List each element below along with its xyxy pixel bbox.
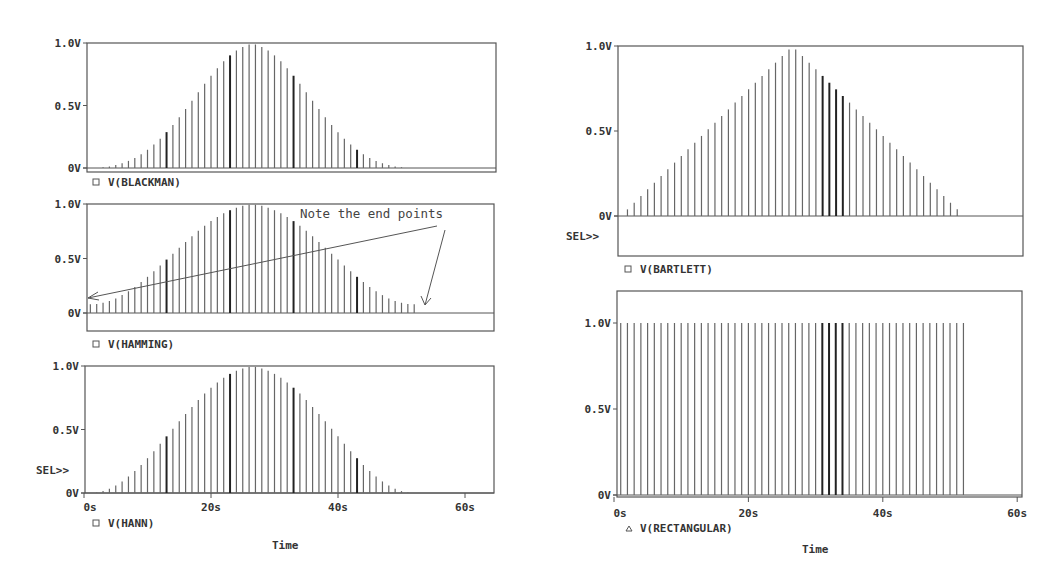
- sel-marker-bartlett: SEL>>: [566, 230, 599, 243]
- y-tick-label: 1.0V: [585, 317, 612, 330]
- plot-frame: [87, 43, 496, 172]
- y-tick-label: 0V: [598, 489, 612, 502]
- x-axis-title-right: Time: [802, 543, 829, 556]
- plot-frame: [85, 366, 494, 493]
- x-axis-title-left: Time: [272, 539, 299, 552]
- x-tick-label: 40s: [328, 501, 348, 514]
- y-tick-label: 1.0V: [53, 360, 80, 373]
- rectangular-plot: 0V0.5V1.0V0s20s40s60sV(RECTANGULAR): [585, 291, 1028, 535]
- plot-frame: [618, 46, 1023, 256]
- square-marker-icon: [93, 520, 99, 526]
- triangle-marker-icon: [626, 526, 632, 531]
- x-tick-label: 20s: [201, 501, 221, 514]
- y-tick-label: 0.5V: [53, 424, 80, 437]
- y-tick-label: 0V: [66, 487, 80, 500]
- y-tick-label: 0V: [599, 210, 613, 223]
- trace-legend[interactable]: V(BARTLETT): [640, 263, 713, 276]
- x-tick-label: 60s: [1007, 507, 1027, 520]
- trace-legend[interactable]: V(HAMMING): [108, 338, 174, 351]
- arrow-line-right: [425, 230, 445, 305]
- y-tick-label: 0V: [68, 162, 82, 175]
- sel-marker-hann: SEL>>: [36, 464, 69, 477]
- trace-legend[interactable]: V(HANN): [108, 517, 154, 530]
- bartlett-plot: 0V0.5V1.0VV(BARTLETT): [586, 40, 1024, 276]
- y-tick-label: 1.0V: [586, 40, 613, 53]
- plot-frame: [617, 291, 1022, 497]
- blackman-plot: 0V0.5V1.0VV(BLACKMAN): [55, 37, 497, 189]
- square-marker-icon: [625, 266, 631, 272]
- square-marker-icon: [93, 179, 99, 185]
- trace-legend[interactable]: V(RECTANGULAR): [640, 522, 733, 535]
- square-marker-icon: [93, 341, 99, 347]
- y-tick-label: 1.0V: [55, 37, 82, 50]
- hann-plot: 0V0.5V1.0V0s20s40s60sV(HANN): [53, 360, 495, 530]
- arrow-line-left: [88, 226, 437, 298]
- x-tick-label: 0s: [613, 507, 626, 520]
- x-tick-label: 60s: [455, 501, 475, 514]
- x-tick-label: 40s: [873, 507, 893, 520]
- y-tick-label: 0V: [68, 307, 82, 320]
- y-tick-label: 0.5V: [55, 100, 82, 113]
- y-tick-label: 0.5V: [586, 125, 613, 138]
- annotation-text: Note the end points: [300, 206, 443, 221]
- y-tick-label: 1.0V: [55, 198, 82, 211]
- window-functions-plot: 0V0.5V1.0VV(BLACKMAN) 0V0.5V1.0VV(HAMMIN…: [0, 0, 1052, 569]
- y-tick-label: 0.5V: [55, 253, 82, 266]
- trace-legend[interactable]: V(BLACKMAN): [108, 176, 181, 189]
- y-tick-label: 0.5V: [585, 403, 612, 416]
- x-tick-label: 20s: [738, 507, 758, 520]
- x-tick-label: 0s: [83, 501, 96, 514]
